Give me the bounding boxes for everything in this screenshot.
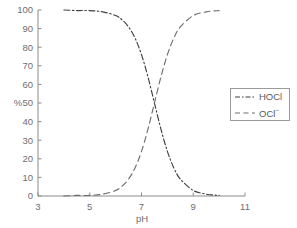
legend-label-hocl: HOCl <box>259 92 282 102</box>
legend-label-ocl: OCl− <box>259 108 279 119</box>
y-axis-title: % <box>14 97 23 108</box>
series-curve-ocl <box>64 11 219 196</box>
y-tick-label: 40 <box>22 116 33 127</box>
y-tick-label: 80 <box>22 42 33 53</box>
chart-container: 0102030405060708090100 357911 % pH HOCl … <box>0 0 297 228</box>
y-tick-label: 100 <box>17 4 33 15</box>
legend-label-ocl-charge: − <box>275 107 279 114</box>
x-tick-label: 11 <box>240 201 250 212</box>
legend-item-hocl: HOCl <box>231 89 289 105</box>
chart-legend: HOCl OCl− <box>230 88 290 121</box>
legend-label-ocl-text: OCl <box>259 108 275 119</box>
y-tick-label: 10 <box>22 172 33 183</box>
legend-swatch-dashed-icon <box>235 109 255 117</box>
x-tick-label: 7 <box>139 201 144 212</box>
y-axis-ticks <box>38 10 42 196</box>
y-tick-label: 0 <box>28 190 33 201</box>
x-tick-label: 5 <box>87 201 92 212</box>
x-tick-label: 3 <box>35 201 40 212</box>
data-series-layer <box>64 10 219 196</box>
y-tick-label: 30 <box>22 135 33 146</box>
y-tick-label: 60 <box>22 79 33 90</box>
x-tick-label: 9 <box>191 201 196 212</box>
x-axis-tick-labels: 357911 <box>35 201 250 212</box>
legend-swatch-dashdot-icon <box>235 93 255 101</box>
series-curve-hocl <box>64 10 219 195</box>
y-tick-label: 50 <box>22 97 33 108</box>
y-tick-label: 70 <box>22 60 33 71</box>
y-tick-label: 90 <box>22 23 33 34</box>
x-axis-title: pH <box>136 213 148 224</box>
y-tick-label: 20 <box>22 153 33 164</box>
legend-item-ocl: OCl− <box>231 105 289 121</box>
